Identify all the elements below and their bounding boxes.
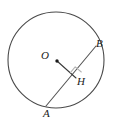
point-label-o: O — [41, 50, 49, 61]
center-point-dot — [55, 59, 58, 62]
point-label-h: H — [77, 76, 85, 87]
geometry-figure: O B H A — [0, 0, 113, 125]
point-label-a: A — [43, 108, 50, 119]
geometry-canvas — [0, 0, 113, 125]
chord-ab-line — [46, 46, 96, 106]
point-label-b: B — [96, 38, 103, 49]
